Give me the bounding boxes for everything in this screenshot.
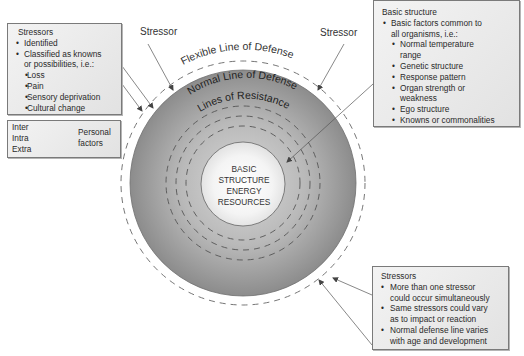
list-item: Organ strength or <box>382 83 519 94</box>
box-title: Stressors <box>381 271 508 282</box>
core-line-4: RESOURCES <box>203 197 285 208</box>
list-item: Genetic structure <box>382 61 519 72</box>
stressor-arrow-left-2 <box>122 84 142 111</box>
box-title: Stressors <box>18 27 121 38</box>
list-item: Pain <box>15 81 121 92</box>
stressor-label-right: Stressor <box>320 27 357 38</box>
stressors-identified-box: Stressors Identified Classified as known… <box>7 23 122 115</box>
core-line-2: STRUCTURE <box>203 175 285 186</box>
core-line-3: ENERGY <box>203 186 285 197</box>
core-label: BASIC STRUCTURE ENERGY RESOURCES <box>203 164 285 208</box>
stressor-arrow-top-left <box>148 44 173 90</box>
list-item: Same stressors could vary <box>381 303 508 314</box>
list-item: Cultural change <box>15 103 121 114</box>
list-item: or possibilities, i.e.: <box>15 59 121 70</box>
list-item: Sensory deprivation <box>15 92 121 103</box>
stressor-arrow-top-right <box>318 44 344 90</box>
flexible-line-label: Flexible Line of Defense <box>178 40 295 67</box>
stressors-variation-box: Stressors More than one stressor could o… <box>372 266 509 350</box>
list-item: Response pattern <box>382 72 519 83</box>
list-item: Normal temperature <box>382 39 519 50</box>
list-item: Loss <box>15 70 121 81</box>
list-item: weakness <box>382 93 519 104</box>
stressor-arrow-left-1 <box>122 66 153 108</box>
stressor-arrow-bottom-2 <box>319 280 372 345</box>
personal-factor-inter: Inter <box>12 122 29 133</box>
list-item: Normal defense line varies <box>381 325 508 336</box>
personal-factor-intra: Intra <box>12 133 29 144</box>
core-line-1: BASIC <box>203 164 285 175</box>
svg-text:Flexible Line of Defense: Flexible Line of Defense <box>178 40 295 67</box>
personal-factor-extra: Extra <box>12 144 31 155</box>
personal-factors-label-1: Personal <box>78 127 111 138</box>
list-item: as to impact or reaction <box>381 314 508 325</box>
basic-structure-box: Basic structure Basic factors common to … <box>373 0 520 127</box>
list-item: could occur simultaneously <box>381 293 508 304</box>
list-item: Classified as knowns <box>15 49 121 60</box>
personal-factors-box: Inter Intra Extra Personal factors <box>7 120 121 158</box>
list-item: range <box>382 50 519 61</box>
list-item: Knowns or commonalities <box>382 115 519 126</box>
list-item: Basic factors common to <box>382 18 519 29</box>
list-item: all organisms, i.e.: <box>382 29 519 40</box>
stressor-label-left: Stressor <box>140 26 177 37</box>
box-title: Basic structure <box>382 7 519 18</box>
stressor-arrow-bottom-1 <box>333 278 372 295</box>
list-item: More than one stressor <box>381 282 508 293</box>
list-item: Ego structure <box>382 104 519 115</box>
list-item: with age and development <box>381 336 508 347</box>
list-item: Identified <box>15 38 121 49</box>
personal-factors-label-2: factors <box>78 138 103 149</box>
